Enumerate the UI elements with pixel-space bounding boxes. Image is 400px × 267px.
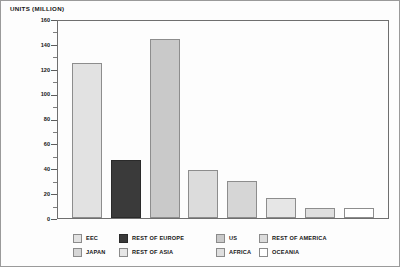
legend-swatch-icon bbox=[119, 234, 128, 243]
y-axis-tick-major bbox=[51, 45, 57, 46]
chart-legend: EECREST OF EUROPEUSREST OF AMERICA JAPAN… bbox=[73, 231, 383, 263]
y-axis-tick-minor bbox=[53, 182, 57, 183]
bar-japan bbox=[227, 181, 257, 218]
legend-swatch-icon bbox=[216, 248, 225, 257]
bar-rest-of-europe bbox=[111, 160, 141, 218]
y-axis-tick-major bbox=[51, 120, 57, 121]
legend-label: EEC bbox=[86, 235, 98, 241]
y-axis-tick-minor bbox=[53, 32, 57, 33]
bar-eec bbox=[72, 63, 102, 218]
bar-rest-of-asia bbox=[266, 198, 296, 218]
legend-swatch-icon bbox=[259, 234, 268, 243]
bar-rest-of-america bbox=[188, 170, 218, 219]
chart-frame: UNITS (MILLION) EECREST OF EUROPEUSREST … bbox=[0, 0, 400, 267]
legend-row-1: EECREST OF EUROPEUSREST OF AMERICA bbox=[73, 231, 383, 245]
legend-item-rest-of-america[interactable]: REST OF AMERICA bbox=[259, 231, 327, 245]
y-axis-tick-label: 20 bbox=[20, 191, 50, 197]
y-axis-tick-major bbox=[51, 95, 57, 96]
y-axis-tick-label: 120 bbox=[20, 67, 50, 73]
y-axis-title: UNITS (MILLION) bbox=[10, 5, 64, 12]
legend-label: OCEANIA bbox=[272, 249, 299, 255]
legend-label: AFRICA bbox=[229, 249, 251, 255]
legend-label: US bbox=[229, 235, 237, 241]
y-axis-tick-major bbox=[51, 194, 57, 195]
legend-item-us[interactable]: US bbox=[216, 231, 237, 245]
legend-label: REST OF EUROPE bbox=[132, 235, 184, 241]
legend-swatch-icon bbox=[73, 234, 82, 243]
y-axis-tick-label: 160 bbox=[20, 17, 50, 23]
legend-swatch-icon bbox=[216, 234, 225, 243]
y-axis-tick-minor bbox=[53, 82, 57, 83]
plot-area bbox=[57, 20, 389, 219]
bar-us bbox=[150, 39, 180, 218]
y-axis-tick-minor bbox=[53, 157, 57, 158]
y-axis-tick-minor bbox=[53, 57, 57, 58]
y-axis-tick-label: 140 bbox=[20, 42, 50, 48]
y-axis-tick-label: 40 bbox=[20, 166, 50, 172]
y-axis-tick-label: 0 bbox=[20, 216, 50, 222]
y-axis-tick-minor bbox=[53, 132, 57, 133]
y-axis-tick-major bbox=[51, 219, 57, 220]
y-axis-tick-label: 60 bbox=[20, 141, 50, 147]
y-axis-tick-major bbox=[51, 20, 57, 21]
legend-label: JAPAN bbox=[86, 249, 106, 255]
legend-row-2: JAPANREST OF ASIAAFRICAOCEANIA bbox=[73, 245, 383, 259]
legend-label: REST OF AMERICA bbox=[272, 235, 327, 241]
legend-swatch-icon bbox=[119, 248, 128, 257]
y-axis-tick-label: 80 bbox=[20, 116, 50, 122]
y-axis-tick-major bbox=[51, 70, 57, 71]
y-axis-tick-minor bbox=[53, 207, 57, 208]
legend-item-japan[interactable]: JAPAN bbox=[73, 245, 106, 259]
legend-item-africa[interactable]: AFRICA bbox=[216, 245, 251, 259]
bar-oceania bbox=[344, 208, 374, 218]
bar-group bbox=[58, 21, 388, 218]
legend-swatch-icon bbox=[259, 248, 268, 257]
y-axis-tick-minor bbox=[53, 107, 57, 108]
legend-label: REST OF ASIA bbox=[132, 249, 173, 255]
legend-item-eec[interactable]: EEC bbox=[73, 231, 98, 245]
bar-africa bbox=[305, 208, 335, 218]
y-axis-tick-label: 100 bbox=[20, 91, 50, 97]
legend-item-oceania[interactable]: OCEANIA bbox=[259, 245, 299, 259]
legend-item-rest-of-asia[interactable]: REST OF ASIA bbox=[119, 245, 173, 259]
legend-item-rest-of-europe[interactable]: REST OF EUROPE bbox=[119, 231, 184, 245]
y-axis-tick-major bbox=[51, 169, 57, 170]
y-axis-tick-major bbox=[51, 144, 57, 145]
legend-swatch-icon bbox=[73, 248, 82, 257]
